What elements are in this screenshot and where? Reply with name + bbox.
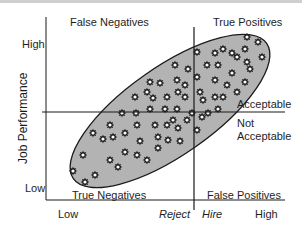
applicant-marker: [204, 109, 212, 117]
applicant-marker: [133, 121, 141, 129]
applicant-marker: [154, 133, 162, 141]
applicant-marker: [228, 69, 236, 77]
applicant-marker: [136, 137, 144, 145]
applicant-marker: [173, 76, 181, 84]
applicant-marker: [223, 81, 231, 89]
applicant-marker: [184, 65, 192, 73]
quadrant-false-negatives: False Negatives: [70, 16, 149, 28]
x-tick-reject: Reject: [159, 208, 190, 220]
applicant-marker: [163, 93, 171, 101]
applicant-marker: [241, 78, 249, 86]
quadrant-false-positives: False Positives: [207, 189, 281, 201]
applicant-marker: [91, 171, 99, 179]
applicant-marker: [163, 121, 171, 129]
applicant-marker: [211, 93, 219, 101]
applicant-marker: [254, 38, 262, 46]
applicant-marker: [151, 121, 159, 129]
x-tick-hire: Hire: [202, 208, 222, 220]
applicant-marker: [156, 79, 164, 87]
applicant-marker: [181, 81, 189, 89]
applicant-marker: [176, 137, 184, 145]
x-tick-high: High: [255, 208, 278, 220]
applicant-marker: [106, 156, 114, 164]
applicant-marker: [99, 135, 107, 143]
applicant-marker: [198, 113, 206, 121]
applicant-marker: [143, 88, 151, 96]
criterion-not-label: Not: [237, 117, 254, 129]
y-tick-high: High: [22, 38, 45, 50]
applicant-marker: [143, 156, 151, 164]
applicant-marker: [196, 88, 204, 96]
applicant-marker: [183, 116, 191, 124]
quadrant-true-positives: True Positives: [213, 16, 282, 28]
y-tick-low: Low: [25, 182, 45, 194]
applicant-marker: [199, 96, 207, 104]
applicant-marker: [149, 94, 157, 102]
applicant-marker: [233, 53, 241, 61]
applicant-marker: [121, 148, 129, 156]
applicant-marker: [181, 93, 189, 101]
applicant-marker: [81, 178, 89, 186]
applicant-marker: [219, 93, 227, 101]
applicant-marker: [118, 109, 126, 117]
applicant-marker: [169, 116, 177, 124]
applicant-marker: [154, 144, 162, 152]
applicant-marker: [164, 136, 172, 144]
applicant-marker: [246, 65, 254, 73]
applicant-marker: [188, 109, 196, 117]
applicant-marker: [146, 78, 154, 86]
applicant-marker: [106, 121, 114, 129]
applicant-marker: [258, 53, 266, 61]
applicant-marker: [243, 33, 251, 41]
applicant-marker: [203, 61, 211, 69]
applicant-marker: [132, 109, 140, 117]
applicant-marker: [241, 45, 249, 53]
applicant-marker: [171, 61, 179, 69]
applicant-marker: [211, 76, 219, 84]
applicant-marker: [133, 151, 141, 159]
applicant-marker: [114, 163, 122, 171]
applicant-marker: [121, 129, 129, 137]
applicant-marker: [211, 49, 219, 57]
quadrant-true-negatives: True Negatives: [72, 189, 146, 201]
x-tick-low: Low: [58, 208, 78, 220]
applicant-marker: [233, 88, 241, 96]
applicant-marker: [219, 45, 227, 53]
applicant-marker: [174, 124, 182, 132]
applicant-marker: [174, 88, 182, 96]
applicant-marker: [109, 133, 117, 141]
applicant-marker: [131, 93, 139, 101]
applicant-marker: [89, 129, 97, 137]
y-axis-label: Job Performance: [16, 74, 30, 164]
criterion-acceptable-label: Acceptable: [237, 98, 291, 110]
selection-decision-diagram: Job Performance High Low False Negatives…: [0, 0, 302, 234]
applicant-marker: [214, 61, 222, 69]
criterion-not-acceptable-label: Acceptable: [237, 130, 291, 142]
applicant-marker: [69, 167, 77, 175]
applicant-marker: [79, 151, 87, 159]
